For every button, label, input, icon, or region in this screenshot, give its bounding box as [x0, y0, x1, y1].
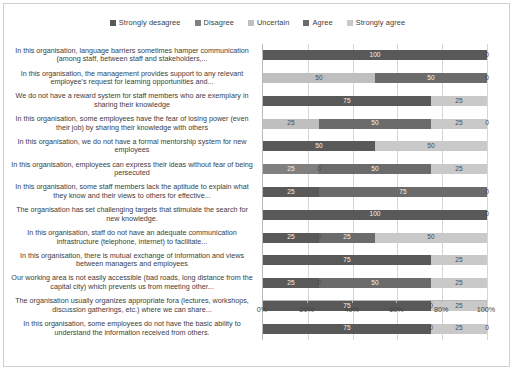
- x-axis-tick-label: 20%: [300, 305, 314, 314]
- bar-segment-label: 0: [317, 234, 321, 241]
- bar-segment[interactable]: 100: [263, 210, 487, 220]
- category-label-row: In this organisation, staff do not have …: [10, 226, 256, 249]
- category-label-row: The organisation has set challenging tar…: [10, 203, 256, 226]
- bar-segment-label: 0: [485, 211, 489, 218]
- legend-swatch-icon: [195, 20, 201, 26]
- legend-item-label: Strongly agree: [356, 18, 405, 27]
- category-label: In this organisation, we do not have a f…: [10, 138, 256, 155]
- bar-segment-label: 0: [317, 166, 321, 173]
- legend-swatch-icon: [110, 20, 116, 26]
- bar-segment-label: 25: [287, 280, 294, 287]
- bar-segment-label: 25: [455, 257, 462, 264]
- x-axis-tick-label: 80%: [434, 305, 448, 314]
- bar-segment[interactable]: 100: [263, 50, 487, 60]
- bar-segment[interactable]: 25: [431, 164, 487, 174]
- bar-segment[interactable]: 25: [263, 278, 319, 288]
- bar-segment[interactable]: 25: [431, 96, 487, 106]
- bar-segment-label: 25: [455, 120, 462, 127]
- legend-item-2[interactable]: Uncertain: [248, 18, 290, 27]
- chart-container: Strongly desagreeDisagreeUncertainAgreeS…: [3, 3, 510, 367]
- category-label: The organisation has set challenging tar…: [10, 206, 256, 223]
- bar-segment[interactable]: 25: [263, 164, 319, 174]
- legend-item-0[interactable]: Strongly desagree: [110, 18, 181, 27]
- bar-segment-label: 50: [315, 75, 322, 82]
- bar-segment[interactable]: 50: [375, 141, 487, 151]
- bar-segment[interactable]: 50: [263, 73, 375, 83]
- bar-segment-label: 50: [427, 143, 434, 150]
- bar-segment[interactable]: 25: [319, 233, 375, 243]
- bar-segment-label: 75: [343, 303, 350, 310]
- bar-segment[interactable]: 25: [431, 119, 487, 129]
- bar-segment[interactable]: 25: [431, 255, 487, 265]
- x-axis-tick: [441, 300, 442, 303]
- bar-row[interactable]: 1000: [263, 210, 487, 220]
- bar-segment-label: 100: [369, 211, 380, 218]
- bar-row[interactable]: 2505025: [263, 164, 487, 174]
- category-label-row: We do not have a reward system for staff…: [10, 90, 256, 113]
- bar-segment-label: 0: [485, 325, 489, 332]
- bar-segment-label: 75: [343, 257, 350, 264]
- bar-segment-label: 0: [485, 75, 489, 82]
- legend-item-1[interactable]: Disagree: [195, 18, 234, 27]
- x-axis-tick: [262, 300, 263, 303]
- chart-legend: Strongly desagreeDisagreeUncertainAgreeS…: [4, 18, 511, 27]
- bar-row[interactable]: 7525: [263, 96, 487, 106]
- legend-item-4[interactable]: Strongly agree: [347, 18, 405, 27]
- bar-segment-label: 0: [429, 325, 433, 332]
- bar-segment-label: 75: [399, 189, 406, 196]
- category-label-row: In this organisation, some employees hav…: [10, 112, 256, 135]
- legend-item-label: Agree: [312, 18, 332, 27]
- category-label: In this organisation, staff do not have …: [10, 229, 256, 246]
- bar-segment-label: 50: [427, 75, 434, 82]
- bar-segment[interactable]: 25: [263, 187, 319, 197]
- bar-segment[interactable]: 50: [263, 141, 375, 151]
- x-axis-tick: [307, 300, 308, 303]
- bar-segment[interactable]: 50: [319, 278, 431, 288]
- bar-segment[interactable]: 50: [319, 119, 431, 129]
- category-label-row: In this organisation, language barriers …: [10, 44, 256, 67]
- bar-row[interactable]: 2505025: [263, 278, 487, 288]
- bar-row[interactable]: 25750: [263, 187, 487, 197]
- bar-segment-label: 0: [485, 120, 489, 127]
- x-axis-tick-label: 0%: [257, 305, 267, 314]
- bar-row[interactable]: 50500: [263, 73, 487, 83]
- bar-row[interactable]: 5050: [263, 141, 487, 151]
- bar-segment-label: 25: [343, 234, 350, 241]
- bar-segment-label: 100: [369, 52, 380, 59]
- bar-segment[interactable]: 75: [263, 96, 431, 106]
- category-axis: In this organisation, language barriers …: [10, 44, 256, 340]
- category-label-row: In this organisation, some employees do …: [10, 317, 256, 340]
- bar-row[interactable]: 7525: [263, 255, 487, 265]
- category-label: In this organisation, there is mutual ex…: [10, 252, 256, 269]
- x-axis-tick-label: 60%: [389, 305, 403, 314]
- bar-segment-label: 0: [485, 189, 489, 196]
- legend-swatch-icon: [347, 20, 353, 26]
- bar-segment[interactable]: 50: [375, 233, 487, 243]
- bar-row[interactable]: 1000: [263, 50, 487, 60]
- bar-segment[interactable]: 25: [431, 278, 487, 288]
- bar-segment-label: 50: [371, 166, 378, 173]
- bar-segment-label: 50: [371, 120, 378, 127]
- bar-segment-label: 0: [317, 280, 321, 287]
- category-label: In this organisation, language barriers …: [10, 47, 256, 64]
- bar-segment[interactable]: 50: [375, 73, 487, 83]
- category-label: In this organisation, some staff members…: [10, 183, 256, 200]
- bar-segment-label: 25: [455, 166, 462, 173]
- bar-segment-label: 25: [455, 280, 462, 287]
- bar-segment[interactable]: 25: [263, 119, 319, 129]
- bar-segment[interactable]: 50: [319, 164, 431, 174]
- bar-segment[interactable]: 75: [319, 187, 487, 197]
- bar-row[interactable]: 2502550: [263, 233, 487, 243]
- x-axis-tick-label: 100%: [477, 305, 495, 314]
- category-label-row: In this organisation, we do not have a f…: [10, 135, 256, 158]
- legend-item-3[interactable]: Agree: [303, 18, 332, 27]
- x-axis-line: [262, 300, 486, 301]
- bar-row[interactable]: 2550250: [263, 119, 487, 129]
- category-label: In this organisation, employees can expr…: [10, 161, 256, 178]
- legend-item-label: Uncertain: [257, 18, 290, 27]
- bar-segment[interactable]: 25: [263, 233, 319, 243]
- bar-segment[interactable]: 75: [263, 255, 431, 265]
- category-label-row: In this organisation, there is mutual ex…: [10, 249, 256, 272]
- category-label-row: In this organisation, some staff members…: [10, 181, 256, 204]
- bar-segment-label: 25: [455, 325, 462, 332]
